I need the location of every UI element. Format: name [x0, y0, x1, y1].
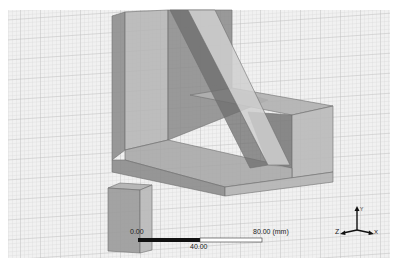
small-box-front	[108, 188, 140, 253]
scale-bar-black-segment	[138, 238, 200, 242]
scale-bar-start-label: 0.00	[130, 228, 144, 236]
scale-bar	[138, 238, 262, 242]
scale-bar-end-label: 80.00 (mm)	[253, 228, 289, 236]
axis-z-label: Z	[335, 228, 339, 236]
3d-viewport[interactable]: 0.00 40.00 80.00 (mm) Y Z X	[0, 0, 398, 264]
scale-bar-white-segment	[200, 238, 262, 242]
scale-bar-mid-label: 40.00	[190, 243, 208, 251]
small-box-side	[140, 185, 152, 253]
bracket-right-block-side	[292, 106, 333, 178]
small-box-model[interactable]	[108, 183, 152, 253]
axis-y-label: Y	[360, 205, 363, 213]
axis-x-label: X	[374, 228, 378, 236]
bracket-back-plate-side	[112, 12, 125, 160]
bracket-back-plate-front	[125, 10, 168, 150]
